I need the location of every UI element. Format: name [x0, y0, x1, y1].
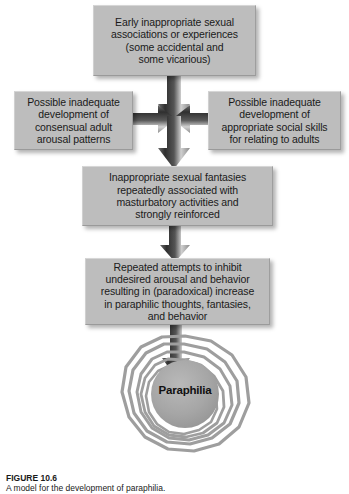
node-inadequate-social-skills-text: Possible inadequate development of appro… [221, 96, 327, 146]
node-early-associations: Early inappropriate sexual associations … [93, 5, 256, 76]
node-repeated-attempts-inhibit-text: Repeated attempts to inhibit undesired a… [101, 261, 255, 323]
figure-caption-label: FIGURE 10.6 [6, 473, 57, 483]
paraphilia-outcome-label: Paraphilia [140, 384, 230, 396]
node-repeated-attempts-inhibit: Repeated attempts to inhibit undesired a… [85, 258, 270, 325]
node-inadequate-social-skills: Possible inadequate development of appro… [208, 91, 341, 150]
node-inappropriate-fantasies-text: Inappropriate sexual fantasies repeatedl… [109, 171, 246, 221]
node-inadequate-arousal: Possible inadequate development of conse… [14, 91, 133, 150]
node-inappropriate-fantasies: Inappropriate sexual fantasies repeatedl… [82, 166, 273, 226]
figure-caption-text: A model for the development of paraphili… [6, 483, 165, 493]
node-inadequate-arousal-text: Possible inadequate development of conse… [27, 96, 120, 146]
arrow-fantasy-to-inhibit-icon [160, 226, 190, 262]
figure-caption: FIGURE 10.6 A model for the development … [6, 462, 346, 494]
node-early-associations-text: Early inappropriate sexual associations … [111, 16, 238, 66]
